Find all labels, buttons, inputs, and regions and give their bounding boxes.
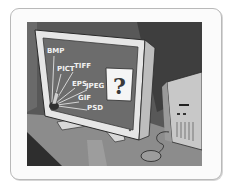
tower-pc [167,72,202,150]
illustration-scene: BMP PICT TIFF EPS JPEG GIF PSD ? [27,22,202,166]
format-label-bmp: BMP [47,47,64,55]
format-label-jpeg: JPEG [85,82,105,90]
mouse [141,151,161,162]
format-label-pict: PICT [57,65,75,73]
power-button [129,129,131,131]
tower-led-1 [177,113,180,115]
format-label-gif: GIF [78,94,91,102]
format-label-tiff: TIFF [74,62,91,70]
format-label-psd: PSD [87,104,103,112]
tower-led-2 [183,113,186,115]
tower-drive-slot [179,104,189,106]
format-label-eps: EPS [72,80,87,88]
illustration-svg: BMP PICT TIFF EPS JPEG GIF PSD ? [27,22,202,166]
question-mark-icon: ? [113,73,126,99]
